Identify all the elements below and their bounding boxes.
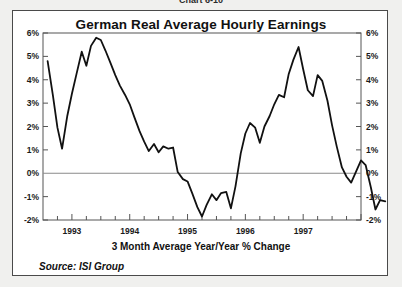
y-axis-tick-right: 1% xyxy=(366,145,392,155)
plot-area: 6%6%5%5%4%4%3%3%2%2%1%1%0%0%-1%-1%-2%-2%… xyxy=(13,11,389,277)
y-axis-tick-right: -2% xyxy=(366,215,392,225)
x-axis-tick: 1993 xyxy=(52,226,92,236)
chart-subtitle: 3 Month Average Year/Year % Change xyxy=(13,241,389,252)
y-axis-tick-left: -2% xyxy=(13,215,39,225)
y-axis-tick-left: 3% xyxy=(13,98,39,108)
chart-frame: German Real Average Hourly Earnings 6%6%… xyxy=(12,10,388,276)
x-axis-tick: 1996 xyxy=(225,226,265,236)
y-axis-tick-left: 0% xyxy=(13,168,39,178)
y-axis-tick-right: -1% xyxy=(366,192,392,202)
y-axis-tick-right: 3% xyxy=(366,98,392,108)
chart-svg xyxy=(13,11,389,277)
x-axis-tick: 1995 xyxy=(168,226,208,236)
y-axis-tick-left: -1% xyxy=(13,192,39,202)
y-axis-tick-right: 6% xyxy=(366,28,392,38)
y-axis-tick-right: 5% xyxy=(366,51,392,61)
page-chart-number: Chart 6-10 xyxy=(0,0,402,4)
y-axis-tick-left: 2% xyxy=(13,122,39,132)
x-axis-tick: 1997 xyxy=(283,226,323,236)
y-axis-tick-right: 0% xyxy=(366,168,392,178)
x-axis-tick: 1994 xyxy=(110,226,150,236)
y-axis-tick-left: 4% xyxy=(13,75,39,85)
y-axis-tick-right: 2% xyxy=(366,122,392,132)
chart-source: Source: ISI Group xyxy=(39,261,124,272)
y-axis-tick-left: 5% xyxy=(13,51,39,61)
y-axis-tick-left: 6% xyxy=(13,28,39,38)
y-axis-tick-right: 4% xyxy=(366,75,392,85)
y-axis-tick-left: 1% xyxy=(13,145,39,155)
